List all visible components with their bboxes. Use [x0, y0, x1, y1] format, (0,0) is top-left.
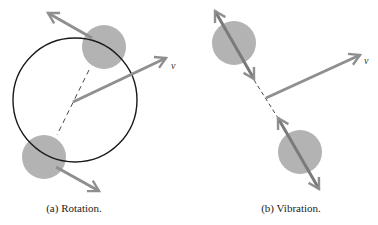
- caption-vibration: (b) Vibration.: [261, 202, 321, 214]
- tangential-arrow-bottom: [56, 167, 99, 191]
- ball-top: [82, 25, 126, 69]
- velocity-label: v: [171, 60, 176, 71]
- molecule-motion-diagram: v v: [0, 0, 378, 225]
- velocity-label: v: [364, 55, 369, 66]
- velocity-arrow: [266, 55, 360, 98]
- caption-rotation: (a) Rotation.: [46, 202, 102, 214]
- axis-dashed-line: [254, 80, 278, 118]
- panel-vibration: v: [212, 11, 369, 189]
- velocity-arrow: [73, 58, 166, 102]
- tangential-arrow-top: [48, 13, 92, 38]
- panel-rotation: v: [13, 13, 176, 191]
- axis-dashed-line: [57, 70, 89, 135]
- ball-bottom: [278, 130, 322, 174]
